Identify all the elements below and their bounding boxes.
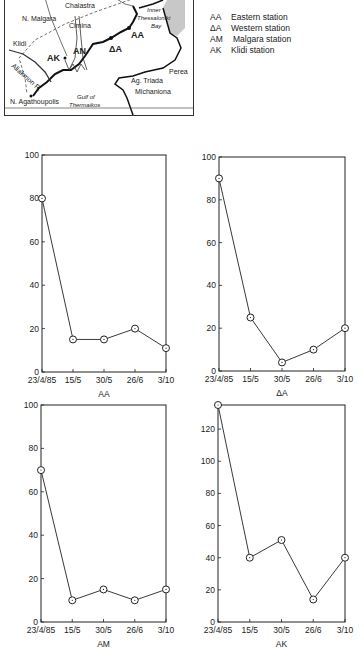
x-tick-label: 23/4/85 (205, 374, 234, 384)
y-tick-label: 40 (206, 553, 216, 563)
chart-delta-a: 02040608010023/4/8515/530/526/63/10ΔA (219, 157, 345, 371)
x-tick-label: 30/5 (273, 625, 290, 635)
x-axis-title: AA (98, 389, 110, 399)
x-tick-label: 3/10 (337, 625, 354, 635)
y-tick-label: 20 (206, 585, 216, 595)
data-line (42, 198, 166, 348)
y-tick-label: 100 (202, 152, 216, 162)
chart-am: 02040608010023/4/8515/530/526/63/10AM (41, 405, 166, 622)
line-chart-plot: 02040608010023/4/8515/530/526/63/10ΔA (219, 157, 345, 411)
y-tick-label: 80 (207, 195, 217, 205)
x-axis-title: ΔA (276, 388, 288, 398)
water-label-thessaloniki: Thessaloniki (137, 15, 170, 21)
place-perea: Perea (169, 68, 188, 75)
place-cimina: Cimina (69, 22, 91, 29)
water-label-gulf-of: Gulf of (77, 94, 95, 100)
legend-row: ΔA Western station (210, 23, 291, 34)
station-label-delta-a: ΔA (109, 44, 122, 54)
x-tick-label: 15/5 (65, 375, 82, 385)
place-n-malgara: N. Malgara (22, 15, 56, 22)
y-tick-label: 40 (207, 280, 217, 290)
legend-label: Western station (231, 23, 290, 34)
legend-code: AK (210, 45, 231, 56)
y-tick-label: 100 (201, 456, 215, 466)
location-map: Chalastra N. Malgara Cimina Klidi Kaloho… (4, 0, 194, 116)
legend-label: Klidi station (231, 45, 274, 56)
x-tick-label: 30/5 (96, 375, 113, 385)
y-tick-label: 60 (29, 487, 39, 497)
water-label-bay: Bay (151, 23, 161, 29)
y-tick-label: 20 (207, 323, 217, 333)
chart-aa: 02040608010023/4/8515/530/526/63/10AA (42, 155, 166, 372)
data-line (41, 470, 166, 600)
line-chart-plot: 02040608010023/4/8515/530/526/63/10AM (41, 405, 166, 662)
chart-ak: 02040608010012023/4/8515/530/526/63/10AK (218, 405, 345, 622)
x-tick-label: 23/4/85 (27, 625, 56, 635)
place-chalastra: Chalastra (65, 2, 95, 9)
data-line (218, 405, 345, 599)
plot-frame (219, 157, 345, 371)
x-tick-label: 30/5 (95, 625, 112, 635)
legend-row: AK Klidi station (210, 45, 291, 56)
y-tick-label: 100 (24, 400, 38, 410)
x-tick-label: 23/4/85 (204, 625, 233, 635)
y-tick-label: 60 (30, 237, 40, 247)
place-michaniona: Michaniona (135, 88, 171, 95)
x-tick-label: 3/10 (337, 374, 354, 384)
line-chart-plot: 02040608010023/4/8515/530/526/63/10AA (42, 155, 166, 412)
place-ag-triada: Ag. Triada (131, 77, 163, 84)
place-n-agathoupolis: N. Agathoupolis (10, 98, 59, 105)
x-tick-label: 26/6 (126, 625, 143, 635)
x-tick-label: 26/6 (127, 375, 144, 385)
x-tick-label: 15/5 (64, 625, 81, 635)
place-thessaloniki: Thessaloniki (156, 0, 194, 1)
legend-code: ΔA (210, 23, 231, 34)
legend-label: Eastern station (231, 12, 288, 23)
legend-code: AM (210, 34, 231, 45)
y-tick-label: 120 (201, 424, 215, 434)
x-tick-label: 30/5 (274, 374, 291, 384)
station-legend: AA Eastern station ΔA Western station AM… (210, 12, 291, 56)
y-tick-label: 20 (30, 324, 40, 334)
y-tick-label: 80 (206, 488, 216, 498)
x-tick-label: 26/6 (305, 374, 322, 384)
place-klidi: Klidi (13, 40, 26, 47)
x-tick-label: 26/6 (305, 625, 322, 635)
x-tick-label: 15/5 (241, 625, 258, 635)
place-kalohori: Kalohori (131, 0, 157, 1)
y-tick-label: 40 (30, 280, 40, 290)
y-tick-label: 40 (29, 530, 39, 540)
x-tick-label: 3/10 (158, 375, 175, 385)
y-tick-label: 100 (25, 150, 39, 160)
x-tick-label: 15/5 (242, 374, 259, 384)
y-tick-label: 80 (29, 443, 39, 453)
x-tick-label: 3/10 (158, 625, 175, 635)
x-axis-title: AM (97, 639, 110, 649)
x-tick-label: 23/4/85 (28, 375, 57, 385)
water-label-inner: Inner (147, 7, 161, 13)
legend-row: AM Malgara station (210, 34, 291, 45)
y-tick-label: 80 (30, 193, 40, 203)
plot-frame (218, 405, 345, 622)
y-tick-label: 20 (29, 574, 39, 584)
legend-code: AA (210, 12, 231, 23)
station-label-ak: AK (47, 53, 60, 63)
data-line (219, 178, 345, 362)
station-label-an: AN (73, 46, 86, 56)
legend-row: AA Eastern station (210, 12, 291, 23)
x-axis-title: AK (276, 639, 288, 649)
station-label-aa: AA (131, 30, 144, 40)
line-chart-plot: 02040608010012023/4/8515/530/526/63/10AK (218, 405, 345, 662)
y-tick-label: 60 (206, 521, 216, 531)
legend-label: Malgara station (231, 34, 291, 45)
water-label-thermaikos: Thermaikos (69, 102, 100, 108)
y-tick-label: 60 (207, 238, 217, 248)
